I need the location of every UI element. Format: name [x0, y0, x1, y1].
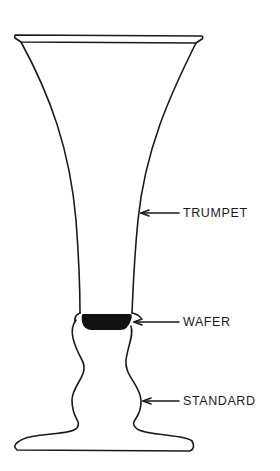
trumpet-right-wall	[132, 43, 196, 313]
rim	[15, 35, 203, 43]
standard-label: STANDARD	[183, 395, 256, 408]
standard-left	[18, 320, 84, 442]
standard-arrow	[143, 398, 179, 404]
trumpet-left-wall	[21, 42, 80, 313]
foot	[15, 441, 194, 451]
trumpet-arrow	[141, 210, 179, 216]
wafer-label: WAFER	[183, 316, 231, 329]
standard-right	[126, 326, 192, 441]
trumpet-label: TRUMPET	[183, 207, 248, 220]
wafer	[82, 314, 132, 330]
wafer-right-flare	[132, 313, 141, 318]
wafer-arrow	[134, 319, 179, 325]
